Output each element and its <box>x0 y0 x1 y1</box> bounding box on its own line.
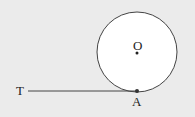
tangent-diagram: O T A <box>0 0 195 117</box>
tangent-point-a <box>135 89 139 93</box>
label-a: A <box>132 94 142 109</box>
label-t: T <box>16 83 24 98</box>
label-o: O <box>133 38 142 53</box>
